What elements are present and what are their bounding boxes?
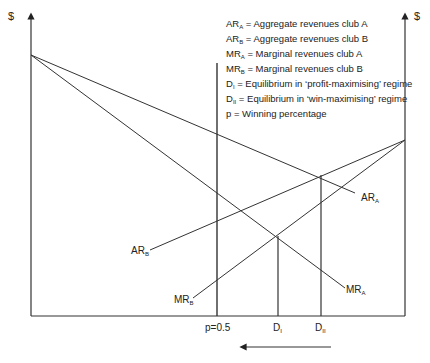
legend-item: MRA = Marginal revenues club A [226,48,412,63]
legend-item: MRB = Marginal revenues club B [226,63,412,78]
mr-a-label: MRA [346,284,366,296]
mr-b-curve [193,140,405,298]
p-half-label: p=0.5 [205,322,230,333]
d2-label: DII [315,322,326,334]
mr-b-label: MRB [174,294,194,306]
left-axis-label: $ [8,10,14,22]
right-axis-label: $ [414,10,420,22]
ar-a-label: ARA [361,192,379,204]
legend: ARA = Aggregate revenues club A ARB = Ag… [226,18,412,123]
ar-b-label: ARB [131,245,149,257]
legend-item: ARA = Aggregate revenues club A [226,18,412,33]
legend-item: ARB = Aggregate revenues club B [226,33,412,48]
d1-label: DI [273,322,282,334]
legend-item: p = Winning percentage [226,108,412,123]
legend-item: DII = Equilibrium in ‘win-maximising’ re… [226,93,412,108]
legend-item: DI = Equilibrium in ‘profit-maximising’ … [226,78,412,93]
